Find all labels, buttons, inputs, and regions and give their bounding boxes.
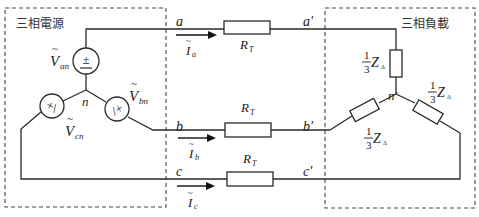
label-vcn: ~ V cn — [65, 112, 84, 141]
svg-text:3: 3 — [364, 63, 370, 75]
wire-a-right — [270, 29, 396, 50]
voltage-source-vcn: +\ — [40, 94, 64, 118]
label-rt-c: R T — [242, 151, 257, 168]
wire-right-c — [440, 121, 460, 133]
svg-text:Z: Z — [371, 55, 379, 70]
resistor-rt-a — [224, 21, 270, 34]
plus-minus-icon: ± — [82, 52, 89, 67]
svg-text:R: R — [239, 37, 248, 52]
label-rt-a: R T — [239, 37, 254, 54]
svg-text:Z: Z — [437, 85, 445, 100]
svg-text:T: T — [249, 45, 254, 54]
svg-text:I: I — [187, 195, 193, 210]
svg-text:c: c — [194, 202, 198, 211]
impedance-left — [350, 98, 379, 121]
svg-text:1: 1 — [366, 125, 372, 137]
three-phase-circuit-diagram: 三相電源 三相負載 ± /+ +\ ~ V an ~ V bn ~ V cn — [0, 0, 479, 217]
node-b-prime: b' — [303, 119, 314, 134]
svg-text:I: I — [185, 43, 191, 58]
label-z-top: 1 3 Z Δ — [362, 49, 385, 75]
node-a: a — [176, 14, 183, 29]
node-b: b — [176, 119, 183, 134]
svg-text:Z: Z — [373, 131, 381, 146]
current-arrow-ib — [178, 134, 216, 142]
svg-text:cn: cn — [75, 131, 84, 141]
wire-a-left — [86, 29, 224, 48]
load-box — [325, 8, 475, 208]
voltage-source-van: ± — [73, 48, 99, 74]
label-neutral-n: n — [82, 94, 89, 109]
wire-left-b — [330, 116, 352, 130]
label-z-right: 1 3 Z Δ — [428, 79, 451, 105]
label-vbn: ~ V bn — [129, 77, 149, 106]
wire-n-vbn — [86, 90, 106, 102]
svg-text:3: 3 — [366, 139, 372, 151]
resistor-rt-c — [227, 172, 273, 186]
svg-text:bn: bn — [139, 96, 149, 106]
voltage-source-vbn: /+ — [105, 97, 129, 121]
svg-text:1: 1 — [364, 49, 370, 61]
svg-text:an: an — [60, 61, 70, 71]
svg-text:T: T — [252, 159, 257, 168]
label-neutral-nprime: n' — [388, 88, 398, 103]
current-arrow-ic — [177, 182, 215, 190]
label-ib: ~ I b — [188, 139, 199, 162]
label-ia: ~ I a — [185, 36, 196, 59]
wire-c-left — [21, 112, 227, 179]
node-a-prime: a' — [303, 14, 314, 29]
svg-text:b: b — [195, 153, 199, 162]
label-ic: ~ I c — [187, 188, 198, 211]
wire-nprime-right — [396, 94, 415, 103]
svg-text:1: 1 — [430, 79, 436, 91]
svg-text:R: R — [242, 151, 251, 166]
svg-text:Δ: Δ — [383, 140, 387, 146]
label-van: ~ V an — [50, 42, 70, 71]
node-c-prime: c' — [303, 164, 313, 179]
svg-text:I: I — [188, 146, 194, 161]
resistor-rt-b — [225, 123, 271, 137]
impedance-right — [413, 100, 443, 124]
source-box-label: 三相電源 — [16, 17, 64, 31]
svg-text:Δ: Δ — [447, 94, 451, 100]
svg-text:Δ: Δ — [381, 64, 385, 70]
label-rt-b: R T — [240, 100, 255, 117]
svg-text:3: 3 — [430, 93, 436, 105]
svg-text:T: T — [250, 108, 255, 117]
label-z-left: 1 3 Z Δ — [364, 125, 387, 151]
current-arrow-ia — [176, 31, 217, 39]
svg-text:R: R — [240, 100, 249, 115]
load-box-label: 三相負載 — [401, 17, 449, 31]
impedance-top — [390, 50, 402, 77]
svg-text:a: a — [192, 50, 196, 59]
node-c: c — [176, 164, 183, 179]
